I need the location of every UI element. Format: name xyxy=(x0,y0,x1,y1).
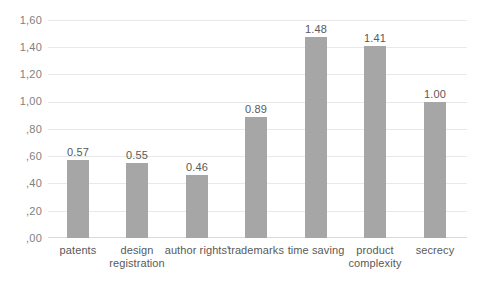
bar-value-label: 0.57 xyxy=(48,147,108,158)
y-tick-label: 1,00 xyxy=(0,96,42,107)
y-tick-label: 1,40 xyxy=(0,42,42,53)
bar-product-complexity[interactable] xyxy=(364,46,386,238)
bar-author-rights[interactable] xyxy=(186,175,208,238)
y-tick-label: ,80 xyxy=(0,124,42,135)
x-axis: patents design registration author right… xyxy=(0,244,480,284)
y-tick-label: 1,60 xyxy=(0,15,42,26)
y-tick-label: ,20 xyxy=(0,206,42,217)
gridline xyxy=(48,74,467,75)
bar-secrecy[interactable] xyxy=(424,102,446,238)
bar-design-registration[interactable] xyxy=(126,163,148,238)
x-tick-label-secrecy: secrecy xyxy=(393,244,477,257)
bar-time-saving[interactable] xyxy=(305,37,327,238)
bar-trademarks[interactable] xyxy=(245,117,267,238)
caption-strip xyxy=(0,283,480,292)
y-tick-label: 1,20 xyxy=(0,69,42,80)
bar-value-label: 0.46 xyxy=(167,162,227,173)
bar-value-label: 1.00 xyxy=(405,89,465,100)
gridline xyxy=(48,47,467,48)
y-tick-label: ,40 xyxy=(0,178,42,189)
gridline xyxy=(48,20,467,21)
bar-patents[interactable] xyxy=(67,160,89,238)
bar-value-label: 1.41 xyxy=(345,33,405,44)
bar-value-label: 0.55 xyxy=(107,150,167,161)
y-tick-label: ,00 xyxy=(0,233,42,244)
bar-chart-figure: 1,60 1,40 1,20 1,00 ,80 ,60 ,40 ,20 ,00 … xyxy=(0,0,480,292)
bar-value-label: 1.48 xyxy=(286,24,346,35)
y-tick-label: ,60 xyxy=(0,151,42,162)
plot-area xyxy=(48,20,467,238)
bar-value-label: 0.89 xyxy=(226,104,286,115)
